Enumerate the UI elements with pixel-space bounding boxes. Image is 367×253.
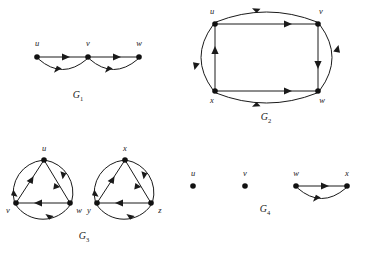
edge-g3-u-to-w <box>44 160 70 203</box>
arrowhead-g2-x-to-u <box>211 46 218 54</box>
vertex-g2-u <box>212 21 218 27</box>
vertex-g1-v <box>85 54 91 60</box>
edge-g1-w-to-v <box>90 59 139 70</box>
vertex-label-g3-w: w <box>76 205 82 215</box>
arrowhead-g3-v-to-u-chord <box>27 176 34 184</box>
arrowhead-g3-x-to-y <box>92 190 99 197</box>
arrowhead-g2-u-to-v <box>284 20 292 27</box>
arrowhead-g3-y-to-x-chord <box>108 176 115 184</box>
caption-g1: G1 <box>73 89 83 102</box>
arrowhead-g3-x-to-z-chord <box>134 183 141 190</box>
edge-g3-y-to-z-arc <box>97 205 152 220</box>
arrowhead-g3-w-to-v-chord <box>34 199 42 206</box>
arrowhead-g2-w-to-v <box>333 45 340 53</box>
vertex-label-g1-w: w <box>136 38 142 48</box>
edge-g4-x-to-w <box>298 188 347 199</box>
caption-g4-letter: G <box>260 203 267 214</box>
vertex-g3-u <box>41 157 47 163</box>
vertex-g4-x <box>344 183 350 189</box>
arrowhead-g2-x-to-w <box>284 87 292 94</box>
caption-g2: G2 <box>261 111 271 124</box>
vertex-g4-w <box>293 183 299 189</box>
arrowhead-g3-z-to-y-chord <box>115 199 123 206</box>
vertex-label-g3-v: v <box>6 205 10 215</box>
arrowhead-g1-v-to-w <box>113 53 121 60</box>
arrowhead-g4-w-to-x <box>321 182 329 189</box>
vertex-label-g2-x: x <box>209 95 214 105</box>
graph-g3-right-triangle: x y z <box>86 143 162 220</box>
arrowhead-g1-u-to-v <box>62 53 70 60</box>
edge-g2-w-to-v <box>320 25 332 90</box>
vertex-g3-w <box>67 200 73 206</box>
edge-g3-w-to-u-arc <box>45 160 72 202</box>
vertex-g4-v <box>242 183 248 189</box>
edge-g3-z-to-x-arc <box>126 160 153 202</box>
caption-g3: G3 <box>79 230 89 243</box>
vertex-label-g4-u: u <box>191 168 195 178</box>
vertex-g4-u <box>190 183 196 189</box>
vertex-label-g4-x: x <box>344 168 349 178</box>
arrowhead-g3-u-to-v <box>11 190 18 197</box>
vertex-label-g3-y: y <box>86 205 91 215</box>
caption-g3-letter: G <box>79 230 86 241</box>
graph-g4: u v w x G4 <box>190 168 350 216</box>
edge-g3-v-to-w-arc <box>16 205 71 220</box>
caption-g2-sub: 2 <box>268 117 271 124</box>
arrowhead-g2-u-to-x <box>193 62 200 70</box>
vertex-label-g3-z: z <box>157 205 162 215</box>
vertex-g3-y <box>94 200 100 206</box>
vertex-g2-x <box>212 88 218 94</box>
vertex-g1-w <box>136 54 142 60</box>
vertex-label-g2-w: w <box>319 95 325 105</box>
vertex-label-g4-v: v <box>243 168 247 178</box>
graph-canvas: u v w G1 <box>0 0 367 253</box>
vertex-g3-x <box>122 157 128 163</box>
caption-g3-sub: 3 <box>86 236 89 243</box>
edge-g2-u-to-x <box>201 25 213 90</box>
vertex-label-g1-u: u <box>35 38 39 48</box>
graph-g3: u v w x <box>6 143 162 243</box>
edge-g3-x-to-z <box>125 160 151 203</box>
vertex-label-g2-v: v <box>319 6 323 16</box>
graph-figure: u v w G1 <box>0 0 367 253</box>
vertex-g2-w <box>315 88 321 94</box>
vertex-label-g1-v: v <box>86 38 90 48</box>
caption-g1-sub: 1 <box>80 95 83 102</box>
vertex-g2-v <box>315 21 321 27</box>
graph-g1: u v w G1 <box>34 38 142 102</box>
vertex-g1-u <box>34 54 40 60</box>
vertex-g3-z <box>148 200 154 206</box>
graph-g3-left-triangle: u v w <box>6 143 82 220</box>
edge-g2-v-to-u <box>216 12 317 22</box>
graph-g2: u v x w G2 <box>193 6 340 124</box>
edge-g2-w-to-x <box>216 93 317 103</box>
arrowhead-g2-v-to-w <box>314 61 321 69</box>
caption-g4-sub: 4 <box>267 209 271 216</box>
arrowhead-g3-u-to-w-chord <box>53 183 60 190</box>
vertex-label-g4-w: w <box>293 168 299 178</box>
vertex-label-g3-x: x <box>122 143 127 153</box>
caption-g2-letter: G <box>261 111 268 122</box>
edge-g1-v-to-u <box>39 59 88 70</box>
caption-g1-letter: G <box>73 89 80 100</box>
vertex-label-g2-u: u <box>210 6 214 16</box>
vertex-label-g3-u: u <box>42 143 46 153</box>
vertex-g3-v <box>13 200 19 206</box>
caption-g4: G4 <box>260 203 271 216</box>
